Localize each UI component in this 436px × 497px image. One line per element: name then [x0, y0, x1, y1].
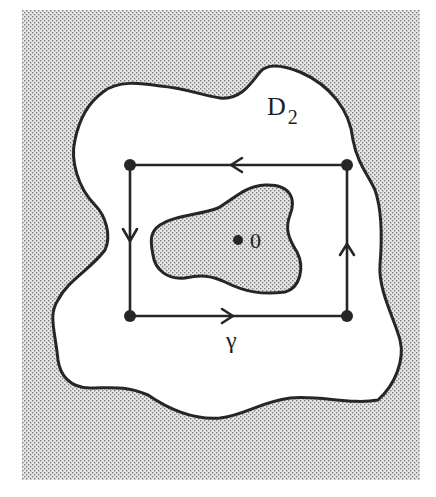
vertex-top-right [341, 159, 353, 171]
contour-label-gamma: γ [225, 327, 237, 353]
contour-diagram: 0 D2 γ [0, 0, 436, 497]
vertex-bottom-right [341, 310, 353, 322]
domain-label-subscript: 2 [288, 106, 298, 128]
vertex-top-left [124, 159, 136, 171]
origin-label: 0 [250, 228, 261, 253]
origin-point [233, 235, 243, 245]
vertex-bottom-left [124, 310, 136, 322]
domain-label-letter: D [267, 92, 286, 121]
